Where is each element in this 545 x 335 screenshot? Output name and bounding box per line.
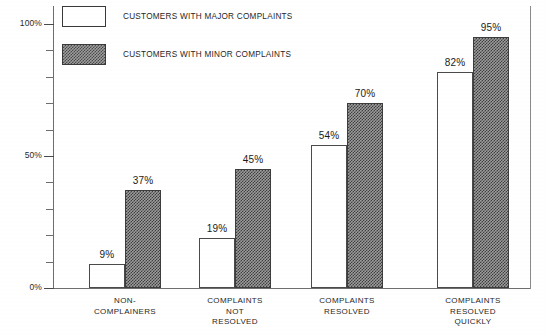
bar-value-label-g2-s0: 54% (305, 130, 353, 141)
bar-g0-s0[interactable] (89, 264, 125, 288)
x-axis-line (53, 288, 531, 289)
bar-g3-s1[interactable] (473, 37, 509, 288)
category-label-0: NON- COMPLAINERS (65, 296, 185, 317)
y-axis-label-100: 100% (2, 18, 42, 28)
y-tick-30 (46, 209, 54, 210)
bar-g1-s0[interactable] (199, 238, 235, 288)
plot-right-border (530, 6, 531, 289)
y-tick-100 (44, 24, 54, 25)
y-tick-10 (46, 262, 54, 263)
bar-value-label-g3-s1: 95% (467, 22, 515, 33)
y-tick-80 (46, 77, 54, 78)
y-tick-40 (46, 182, 54, 183)
bar-g2-s0[interactable] (311, 145, 347, 288)
bar-g3-s0[interactable] (437, 72, 473, 288)
bar-g1-s1[interactable] (235, 169, 271, 288)
y-tick-0 (44, 288, 54, 289)
bar-value-label-g2-s1: 70% (341, 88, 389, 99)
y-tick-50 (44, 156, 54, 157)
legend-label-major: CUSTOMERS WITH MAJOR COMPLAINTS (123, 12, 293, 21)
legend-swatch-major-icon (62, 6, 106, 27)
category-label-1: COMPLAINTS NOT RESOLVED (175, 296, 295, 328)
category-label-2: COMPLAINTS RESOLVED (287, 296, 407, 317)
y-axis-line (53, 6, 54, 289)
y-tick-60 (46, 130, 54, 131)
legend-item-minor: CUSTOMERS WITH MINOR COMPLAINTS (62, 44, 291, 65)
y-tick-20 (46, 235, 54, 236)
bar-chart: 100%50%0% CUSTOMERS WITH MAJOR COMPLAINT… (0, 0, 545, 335)
category-label-3: COMPLAINTS RESOLVED QUICKLY (413, 296, 533, 328)
legend-item-major: CUSTOMERS WITH MAJOR COMPLAINTS (62, 6, 293, 27)
y-axis-label-50: 50% (2, 150, 42, 160)
bar-g0-s1[interactable] (125, 190, 161, 288)
legend-label-minor: CUSTOMERS WITH MINOR COMPLAINTS (123, 50, 291, 59)
bar-value-label-g1-s0: 19% (193, 223, 241, 234)
bar-g2-s1[interactable] (347, 103, 383, 288)
legend-swatch-minor-icon (62, 44, 106, 65)
bar-value-label-g0-s0: 9% (83, 249, 131, 260)
y-axis-label-0: 0% (2, 282, 42, 292)
bar-value-label-g3-s0: 82% (431, 57, 479, 68)
y-tick-70 (46, 103, 54, 104)
y-tick-90 (46, 50, 54, 51)
bar-value-label-g1-s1: 45% (229, 154, 277, 165)
bar-value-label-g0-s1: 37% (119, 175, 167, 186)
